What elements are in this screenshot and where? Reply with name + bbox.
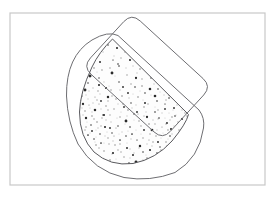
stipple-dot: [181, 109, 182, 110]
stipple-dot: [121, 95, 123, 97]
stipple-dot: [169, 119, 171, 121]
stipple-dot: [117, 103, 118, 104]
stipple-dot: [157, 109, 159, 111]
stipple-dot: [160, 137, 161, 138]
stipple-dot: [129, 157, 130, 158]
stipple-dot: [103, 114, 105, 116]
stipple-dot: [84, 89, 87, 92]
stipple-dot: [115, 127, 117, 129]
stipple-dot: [94, 96, 95, 97]
stipple-dot: [100, 108, 101, 109]
stipple-dot: [111, 132, 113, 134]
stipple-dot: [148, 123, 150, 125]
stipple-dot: [141, 134, 142, 135]
stipple-dot: [139, 68, 141, 70]
stipple-dot: [104, 126, 106, 128]
stipple-dot: [129, 126, 131, 128]
stipple-dot: [171, 133, 173, 135]
stipple-dot: [110, 89, 111, 90]
stipple-dot: [143, 115, 145, 117]
stipple-dot: [94, 109, 97, 112]
stipple-dot: [156, 129, 157, 130]
stipple-dot: [89, 107, 90, 108]
stipple-dot: [132, 65, 133, 66]
stipple-dot: [109, 114, 111, 116]
stipple-dot: [117, 149, 119, 151]
stipple-dot: [167, 129, 168, 130]
stipple-dot: [133, 119, 134, 120]
stipple-dot: [117, 63, 119, 65]
stipple-dot: [123, 156, 124, 157]
stipple-dot: [98, 147, 100, 149]
stipple-dot: [153, 83, 154, 84]
stipple-dot: [91, 111, 92, 112]
stipple-dot: [125, 120, 128, 123]
stipple-dot: [112, 59, 114, 61]
stipple-dot: [135, 129, 136, 130]
stipple-dot: [122, 86, 124, 88]
stipple-dot: [106, 131, 107, 132]
stipple-dot: [154, 95, 157, 98]
stipple-dot: [149, 149, 151, 151]
stipple-dot: [87, 82, 89, 84]
stipple-dot: [119, 89, 121, 91]
stipple-dot: [149, 133, 151, 135]
stipple-dot: [174, 115, 176, 117]
stipple-dot: [163, 94, 164, 95]
stipple-dot: [164, 108, 166, 110]
stipple-dot: [103, 142, 104, 143]
stipple-dot: [152, 119, 153, 120]
stipple-dot: [94, 141, 95, 142]
stipple-dot: [113, 55, 114, 56]
stipple-dot: [158, 117, 160, 119]
stipple-dot: [114, 144, 115, 145]
stipple-dot: [118, 81, 120, 83]
stipple-dot: [84, 129, 86, 131]
stipple-dot: [91, 130, 93, 132]
stipple-dot: [92, 87, 94, 89]
stipple-dot: [146, 143, 147, 144]
stipple-dot: [165, 99, 167, 101]
stipple-dot: [151, 145, 152, 146]
stipple-dot: [159, 91, 160, 92]
stipple-dot: [126, 115, 127, 116]
stipple-dot: [147, 103, 149, 105]
stipple-dot: [109, 159, 111, 161]
stipple-dot: [115, 98, 116, 99]
stipple-dot: [112, 152, 114, 154]
stipple-dot: [109, 67, 111, 69]
stipple-dot: [117, 125, 119, 127]
stipple-dot: [111, 95, 113, 97]
stipple-dot: [90, 124, 92, 126]
stipple-dot: [176, 104, 178, 106]
stipple-dot: [130, 138, 131, 139]
stipple-dot: [81, 107, 82, 108]
stipple-dot: [132, 93, 133, 94]
stipple-dot: [150, 94, 151, 95]
stipple-dot: [100, 142, 102, 144]
stipple-dot: [95, 129, 96, 130]
stipple-dot: [113, 108, 114, 109]
stipple-dot: [164, 117, 165, 118]
stipple-dot: [155, 135, 156, 136]
stipple-dot: [161, 112, 162, 113]
stipple-dot: [95, 144, 97, 146]
stipple-dot: [115, 158, 116, 159]
stipple-dot: [131, 133, 133, 135]
stipple-dot: [118, 65, 120, 67]
stipple-dot: [129, 59, 131, 61]
stipple-dot: [99, 93, 100, 94]
stipple-dot: [132, 154, 134, 156]
stipple-dot: [134, 86, 136, 88]
stipple-dot: [145, 111, 146, 112]
stipple-dot: [105, 119, 107, 121]
stipple-dot: [146, 116, 148, 118]
stipple-dot: [104, 135, 105, 136]
stipple-dot: [143, 129, 145, 131]
stipple-dot: [139, 145, 141, 147]
stipple-dot: [126, 142, 127, 143]
stipple-dot: [91, 115, 93, 117]
stipple-dot: [119, 116, 120, 117]
stipple-dot: [88, 104, 89, 105]
stipple-dot: [136, 111, 138, 113]
